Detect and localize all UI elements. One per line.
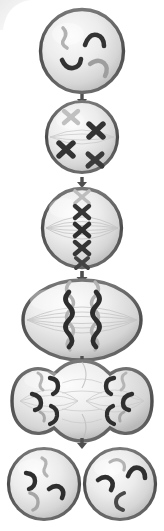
stage-5-telophase [12, 361, 152, 441]
cell-highlight [94, 459, 122, 477]
mitosis-illustration [0, 0, 164, 531]
stage-2-prometaphase [47, 102, 118, 173]
cell-membrane [41, 10, 124, 93]
cell-membrane [47, 102, 118, 173]
daughter-cell-left [9, 449, 80, 520]
stage-4-anaphase [23, 280, 141, 360]
stage-1-prophase [41, 10, 124, 93]
cell-highlight [52, 23, 84, 45]
mitosis-diagram: Mitosis cell division sequence [0, 0, 164, 531]
daughter-cell-right [85, 449, 156, 520]
stage-3-metaphase [43, 189, 122, 269]
